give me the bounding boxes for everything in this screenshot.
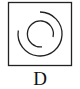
outer-arc <box>18 12 62 56</box>
option-figure-d <box>0 0 80 70</box>
figure-label: D <box>0 68 80 89</box>
concentric-arcs-diagram <box>0 0 80 70</box>
inner-arc <box>27 21 53 47</box>
